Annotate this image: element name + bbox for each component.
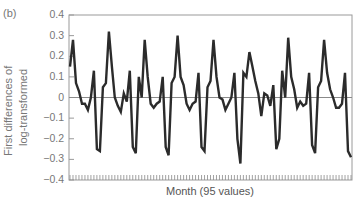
x-axis-label: Month (95 values) [68, 185, 352, 197]
x-ticks [70, 175, 351, 180]
line-chart-plot [0, 0, 360, 205]
